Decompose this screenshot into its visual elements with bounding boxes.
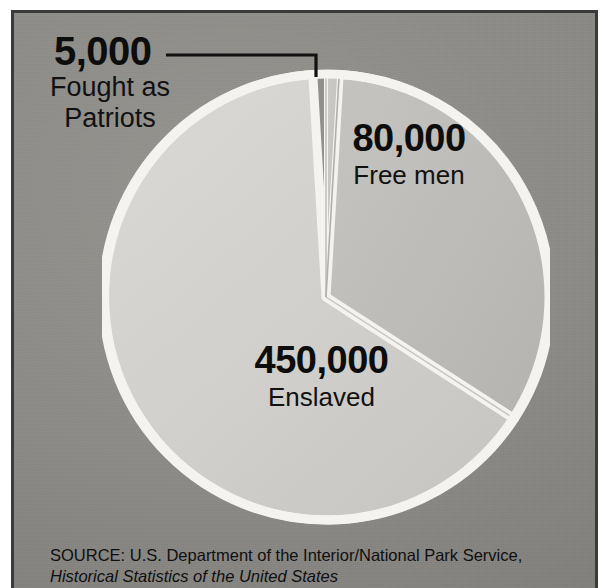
pie-chart-figure: the Continental Army that marched with G…	[0, 0, 609, 588]
callout-caption-line1: Fought as	[40, 72, 180, 103]
source-line-1: SOURCE: U.S. Department of the Interior/…	[50, 545, 590, 566]
callout-caption-line2: Patriots	[40, 103, 180, 134]
free-men-caption: Free men	[314, 160, 504, 190]
chart-panel: the Continental Army that marched with G…	[14, 13, 595, 588]
callout-fought-as-patriots: 5,000 Fought as Patriots	[40, 30, 180, 134]
enslaved-value: 450,000	[189, 338, 454, 382]
slice-label-free-men: 80,000 Free men	[314, 117, 504, 190]
source-note: SOURCE: U.S. Department of the Interior/…	[50, 545, 590, 587]
enslaved-caption: Enslaved	[189, 382, 454, 413]
free-men-value: 80,000	[314, 117, 504, 160]
slice-label-enslaved: 450,000 Enslaved	[189, 338, 454, 413]
source-line-2: Historical Statistics of the United Stat…	[50, 566, 590, 587]
callout-value: 5,000	[40, 30, 180, 72]
